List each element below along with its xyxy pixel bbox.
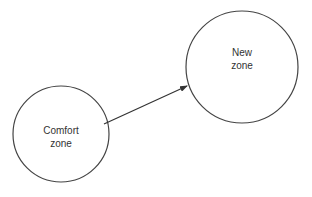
comfort-zone-label: Comfort zone	[43, 124, 79, 150]
transition-arrow	[104, 86, 187, 124]
diagram-canvas	[0, 0, 312, 197]
new-zone-label: New zone	[231, 46, 253, 72]
